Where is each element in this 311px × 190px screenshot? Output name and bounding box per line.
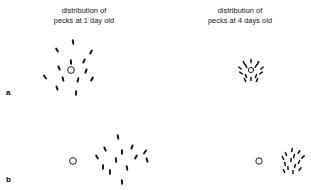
peck-mark: [285, 152, 288, 157]
peck-cluster-a-4days: [238, 59, 264, 83]
peck-mark: [126, 165, 129, 171]
peck-mark: [244, 64, 248, 69]
peck-mark: [61, 76, 64, 82]
peck-mark: [130, 144, 134, 150]
peck-mark: [287, 166, 289, 171]
peck-mark: [76, 77, 79, 83]
peck-mark: [70, 59, 72, 65]
peck-mark: [75, 90, 77, 96]
peck-mark: [89, 49, 93, 55]
peck-mark: [238, 66, 242, 70]
peck-mark: [57, 65, 61, 71]
peck-mark: [294, 164, 297, 169]
peck-mark: [55, 47, 59, 53]
peck-cluster-b-1day: [70, 134, 149, 185]
peck-mark: [243, 78, 246, 83]
peck-mark: [250, 77, 252, 82]
peck-mark: [297, 150, 301, 155]
peck-mark: [255, 78, 258, 83]
peck-mark: [301, 155, 305, 159]
peck-mark: [290, 158, 292, 163]
peck-mark: [254, 64, 258, 69]
peck-mark: [260, 66, 264, 70]
peck-mark: [284, 162, 286, 167]
target-circle: [256, 158, 262, 164]
peck-mark: [239, 71, 244, 75]
peck-mark: [90, 76, 94, 82]
target-circle: [68, 67, 75, 74]
peck-mark: [259, 71, 264, 75]
peck-mark: [82, 58, 86, 64]
peck-mark: [134, 154, 138, 160]
peck-mark: [115, 157, 117, 163]
peck-mark: [281, 156, 285, 161]
peck-mark: [84, 68, 88, 74]
peck-mark: [282, 169, 285, 174]
target-circle: [70, 158, 77, 165]
peck-mark: [55, 85, 59, 91]
peck-mark: [95, 154, 99, 160]
peck-distribution-figure: distribution of pecks at 1 day old distr…: [0, 0, 311, 190]
peck-scatter-plot: [0, 0, 311, 190]
peck-mark: [291, 148, 293, 153]
peck-mark: [145, 157, 148, 163]
peck-cluster-a-1day: [43, 39, 94, 96]
peck-mark: [121, 149, 123, 154]
peck-cluster-b-4days: [256, 148, 305, 175]
peck-mark: [143, 149, 148, 155]
peck-mark: [245, 74, 248, 79]
peck-mark: [117, 134, 120, 140]
peck-mark: [43, 74, 48, 80]
peck-mark: [298, 167, 302, 171]
peck-mark: [121, 179, 123, 185]
peck-mark: [109, 169, 111, 174]
peck-mark: [292, 170, 294, 175]
target-circle: [248, 67, 253, 72]
peck-mark: [102, 164, 104, 169]
peck-mark: [297, 160, 301, 165]
peck-mark: [293, 154, 296, 159]
peck-mark: [103, 146, 107, 152]
peck-mark: [72, 39, 75, 45]
peck-mark: [255, 74, 258, 79]
peck-mark: [250, 59, 252, 64]
